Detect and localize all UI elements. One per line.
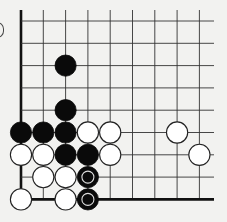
white-stone bbox=[100, 122, 121, 143]
black-stone bbox=[55, 144, 76, 165]
black-stone bbox=[55, 100, 76, 121]
black-stone bbox=[33, 122, 54, 143]
white-stone bbox=[55, 189, 76, 210]
black-stone bbox=[10, 122, 31, 143]
black-stone bbox=[55, 122, 76, 143]
white-stone bbox=[100, 144, 121, 165]
white-stone bbox=[33, 144, 54, 165]
white-stone bbox=[55, 167, 76, 188]
go-board bbox=[0, 0, 227, 222]
white-stone bbox=[77, 122, 98, 143]
white-stone bbox=[33, 167, 54, 188]
black-stone bbox=[77, 167, 98, 188]
white-stone bbox=[10, 189, 31, 210]
white-stone bbox=[10, 144, 31, 165]
black-stone bbox=[77, 144, 98, 165]
white-stone bbox=[167, 122, 188, 143]
white-stone bbox=[189, 144, 210, 165]
black-stone bbox=[77, 189, 98, 210]
black-stone bbox=[55, 55, 76, 76]
